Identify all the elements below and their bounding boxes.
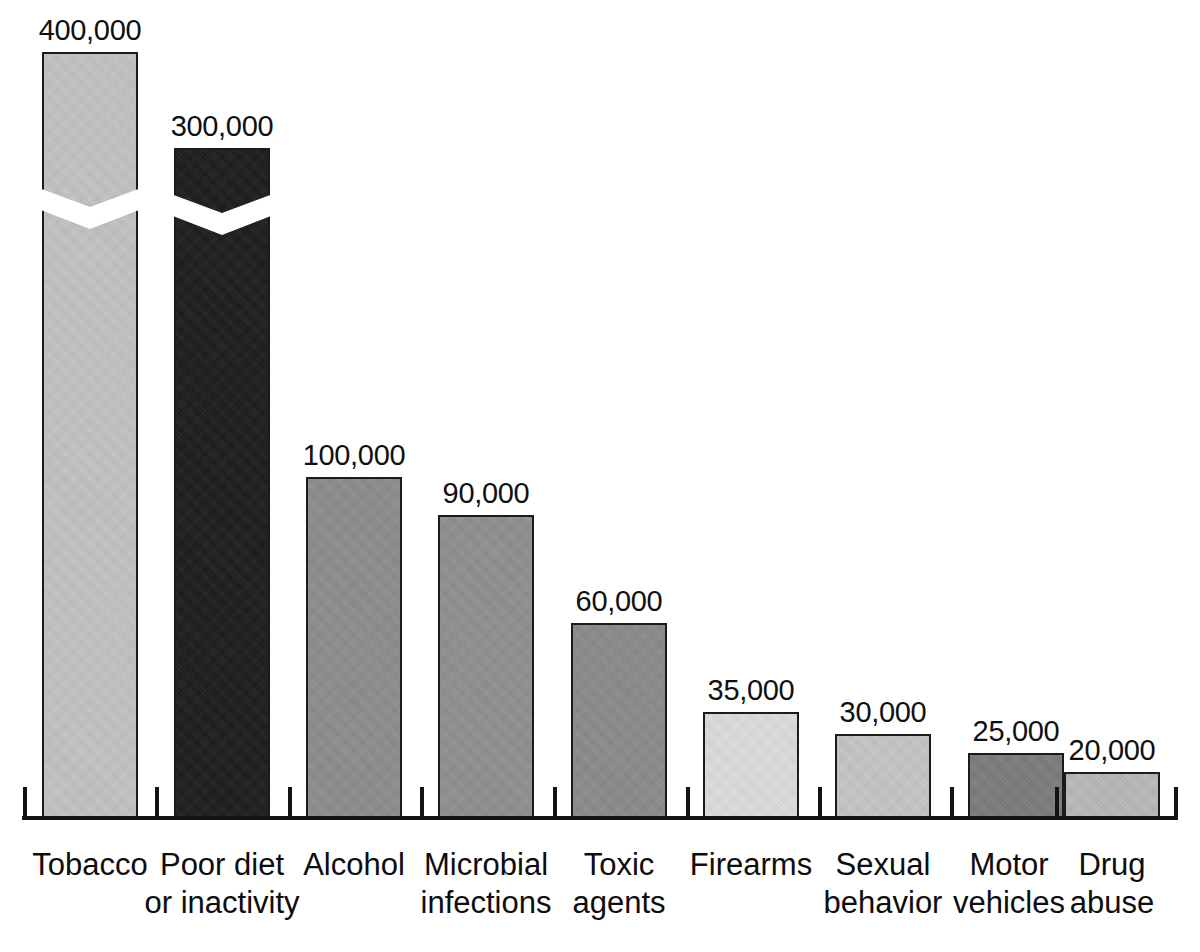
bar-drug-abuse[interactable] [1064,772,1160,818]
axis-tick-2 [288,787,292,820]
plot-area: 400,000300,000100,00090,00060,00035,0003… [0,0,1200,830]
bar-rect [1064,772,1160,818]
bar-rect [306,477,402,818]
axis-tick-4 [553,787,557,820]
axis-tick-3 [420,787,424,820]
axis-tick-5 [686,787,690,820]
bar-microbial-infections[interactable] [438,515,534,818]
axis-tick-6 [818,787,822,820]
axis-tick-0 [23,787,27,820]
bar-poor-diet-or-inactivity[interactable] [174,148,270,818]
axis-tick-8 [1055,787,1059,820]
bar-rect [42,52,138,818]
bar-value-label: 300,000 [144,110,300,143]
bar-firearms[interactable] [703,712,799,818]
bar-value-label: 400,000 [12,14,168,47]
bar-rect [835,734,931,818]
bar-chart: 400,000300,000100,00090,00060,00035,0003… [0,0,1200,952]
bar-toxic-agents[interactable] [571,623,667,818]
bar-sexual-behavior[interactable] [835,734,931,818]
axis-tick-7 [950,787,954,820]
bar-alcohol[interactable] [306,477,402,818]
bar-rect [438,515,534,818]
bar-rect [571,623,667,818]
bar-value-label: 60,000 [541,585,697,618]
bar-value-label: 100,000 [276,439,432,472]
x-axis-baseline [22,816,1178,820]
axis-tick-9 [1174,787,1178,820]
bar-tobacco[interactable] [42,52,138,818]
bar-rect [174,148,270,818]
axis-tick-1 [155,787,159,820]
category-label: Drug abuse [1022,846,1200,922]
bar-value-label: 90,000 [408,477,564,510]
bar-value-label: 20,000 [1034,734,1190,767]
bar-rect [703,712,799,818]
